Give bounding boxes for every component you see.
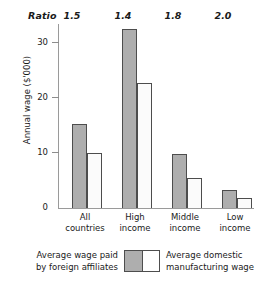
y-tick-label-10: 10 <box>22 148 48 157</box>
legend-label-line-1: Average wage paid <box>18 250 118 262</box>
x-tick-label-line-2: income <box>208 223 262 234</box>
y-tick-label-30: 30 <box>22 38 48 47</box>
x-tick-label-line-1: Low <box>208 212 262 223</box>
ratio-value-low-income: 2.0 <box>201 10 245 21</box>
x-axis-line <box>58 208 254 209</box>
x-tick-label-line-1: High <box>108 212 162 223</box>
x-tick-label-line-2: income <box>158 223 212 234</box>
plot-area <box>58 24 254 209</box>
x-tick-label-high-income: High income <box>108 212 162 234</box>
chart-legend: Average wage paid by foreign affiliates … <box>0 250 264 280</box>
ratio-value-high-income: 1.4 <box>101 10 145 21</box>
legend-label-line-1: Average domestic <box>166 250 264 262</box>
y-tick-label-0: 0 <box>22 203 48 212</box>
legend-label-foreign-affiliates: Average wage paid by foreign affiliates <box>18 250 118 273</box>
y-tick-label-20: 20 <box>22 93 48 102</box>
x-tick-label-line-1: Middle <box>158 212 212 223</box>
legend-label-line-2: manufacturing wage <box>166 262 264 274</box>
legend-swatch-group <box>124 250 160 272</box>
x-tick-label-all-countries: All countries <box>58 212 112 234</box>
x-tick-label-line-2: income <box>108 223 162 234</box>
x-tick-label-middle-income: Middle income <box>158 212 212 234</box>
bar-chart-figure: Ratio 1.5 1.4 1.8 2.0 Annual wage ($'000… <box>0 0 264 286</box>
bar-domestic-middle-income <box>187 178 202 209</box>
bar-foreign-low-income <box>222 190 237 209</box>
bar-foreign-middle-income <box>172 154 187 209</box>
legend-swatch-foreign-affiliates <box>125 251 143 271</box>
x-tick-label-line-1: All <box>58 212 112 223</box>
ratio-value-middle-income: 1.8 <box>151 10 195 21</box>
legend-label-line-2: by foreign affiliates <box>18 262 118 274</box>
x-tick-label-line-2: countries <box>58 223 112 234</box>
bar-domestic-high-income <box>137 83 152 209</box>
bar-foreign-high-income <box>122 29 137 209</box>
legend-swatch-domestic-wage <box>143 251 160 271</box>
bar-foreign-all-countries <box>72 124 87 209</box>
ratio-value-all-countries: 1.5 <box>50 10 94 21</box>
x-tick-label-low-income: Low income <box>208 212 262 234</box>
bar-domestic-all-countries <box>87 153 102 209</box>
legend-label-domestic-wage: Average domestic manufacturing wage <box>166 250 264 273</box>
